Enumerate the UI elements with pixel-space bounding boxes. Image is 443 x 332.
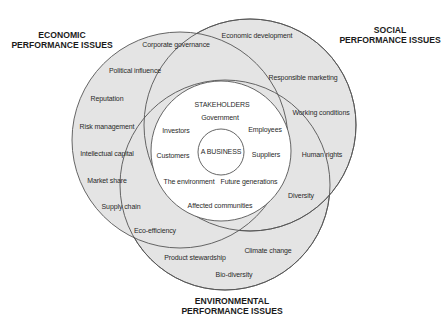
social-title: SOCIALPERFORMANCE ISSUES <box>339 25 440 45</box>
social-issue: Economic development <box>222 32 293 39</box>
economic-issue: Political influence <box>109 67 161 74</box>
stakeholder-item: Government <box>201 114 239 121</box>
stakeholder-item: Affected communities <box>188 202 253 209</box>
economic-issue: Supply chain <box>102 203 141 210</box>
social-issue: Diversity <box>288 192 314 199</box>
economic-title: ECONOMICPERFORMANCE ISSUES <box>11 30 112 50</box>
economic-issue: Risk management <box>80 123 135 130</box>
social-issue: Working conditions <box>292 109 349 116</box>
economic-issue: Market share <box>87 177 127 184</box>
social-issue: Responsible marketing <box>268 74 337 81</box>
economic-issue: Reputation <box>91 95 124 102</box>
stakeholder-item: The environment <box>163 178 214 185</box>
environmental-issue: Bio-diversity <box>216 271 253 278</box>
economic-issue: Intellectual capital <box>80 150 134 157</box>
stakeholder-item: Future generations <box>221 178 278 185</box>
sustainability-venn-diagram: ECONOMICPERFORMANCE ISSUES SOCIALPERFORM… <box>0 0 443 332</box>
environmental-title: ENVIRONMENTALPERFORMANCE ISSUES <box>181 296 282 316</box>
economic-issue: Corporate governance <box>142 41 210 48</box>
economic-issue: Eco-efficiency <box>134 227 176 234</box>
stakeholder-item: Employees <box>248 126 282 133</box>
stakeholder-item: Suppliers <box>252 151 280 158</box>
social-issue: Human rights <box>302 151 342 158</box>
business-core-label: A BUSINESS <box>201 148 242 155</box>
stakeholder-item: Customers <box>157 152 190 159</box>
environmental-issue: Product stewardship <box>164 254 226 261</box>
environmental-issue: Climate change <box>244 247 291 254</box>
stakeholder-item: Investors <box>162 127 190 134</box>
stakeholders-heading: STAKEHOLDERS <box>194 101 249 108</box>
